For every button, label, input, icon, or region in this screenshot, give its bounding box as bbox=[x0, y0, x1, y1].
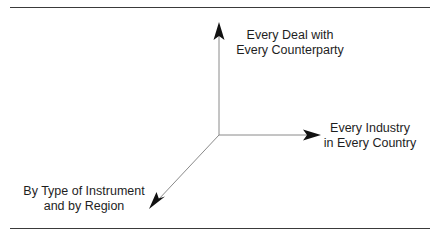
label-line: and by Region bbox=[22, 199, 146, 214]
label-line: Every Deal with bbox=[232, 28, 348, 43]
diagonal-axis-line bbox=[158, 135, 219, 200]
label-line: Every Counterparty bbox=[232, 43, 348, 58]
diagram-canvas: Every Deal with Every Counterparty Every… bbox=[0, 0, 438, 233]
vertical-axis-label: Every Deal with Every Counterparty bbox=[232, 28, 348, 58]
horizontal-axis-label: Every Industry in Every Country bbox=[322, 121, 418, 151]
label-line: By Type of Instrument bbox=[22, 184, 146, 199]
label-line: Every Industry bbox=[322, 121, 418, 136]
diagonal-axis-label: By Type of Instrument and by Region bbox=[22, 184, 146, 214]
label-line: in Every Country bbox=[322, 136, 418, 151]
